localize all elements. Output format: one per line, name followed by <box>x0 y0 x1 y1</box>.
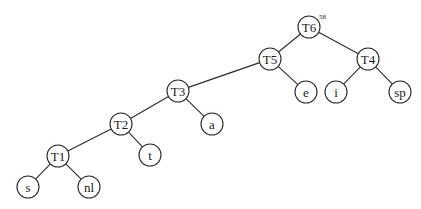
tree-node-a: a <box>201 113 223 135</box>
edge-T1-s <box>36 164 51 179</box>
node-label: a <box>209 117 215 132</box>
tree-node-nl: nl <box>78 176 100 198</box>
edge-T5-T3 <box>188 63 259 88</box>
node-label: T2 <box>114 117 128 132</box>
tree-node-T3: T3 <box>167 80 189 102</box>
node-label: e <box>303 85 309 100</box>
tree-node-T5: T5 <box>259 48 281 70</box>
tree-node-sp: sp <box>389 81 411 103</box>
tree-edges <box>36 32 393 179</box>
tree-diagram: T6T5T4eispT3aT2tT1snl 58 <box>0 0 421 209</box>
node-label: s <box>25 180 30 195</box>
edge-T3-T2 <box>131 97 169 119</box>
edge-T2-t <box>129 132 143 147</box>
node-label: nl <box>84 180 95 195</box>
root-weight-annotation: 58 <box>319 13 327 21</box>
node-label: T3 <box>171 84 185 99</box>
tree-node-e: e <box>295 81 317 103</box>
tree-node-T2: T2 <box>110 113 132 135</box>
tree-node-s: s <box>17 176 39 198</box>
edge-T5-e <box>278 66 298 84</box>
edge-T4-sp <box>376 67 393 84</box>
edge-T2-T1 <box>68 129 111 151</box>
node-label: T5 <box>263 52 277 67</box>
tree-node-i: i <box>325 81 347 103</box>
edge-T6-T5 <box>279 34 301 52</box>
node-label: sp <box>394 85 406 100</box>
tree-node-t: t <box>139 144 161 166</box>
tree-node-T6: T6 <box>298 16 320 38</box>
edge-T3-a <box>186 99 204 117</box>
tree-node-T1: T1 <box>47 145 69 167</box>
tree-nodes: T6T5T4eispT3aT2tT1snl <box>17 16 411 198</box>
node-label: t <box>148 148 152 163</box>
edge-T1-nl <box>66 164 81 179</box>
tree-node-T4: T4 <box>357 48 379 70</box>
node-label: T6 <box>302 20 317 35</box>
node-label: i <box>334 85 338 100</box>
node-label: T4 <box>361 52 376 67</box>
edge-T4-i <box>344 67 361 84</box>
edge-T6-T4 <box>319 32 359 54</box>
node-label: T1 <box>51 149 65 164</box>
